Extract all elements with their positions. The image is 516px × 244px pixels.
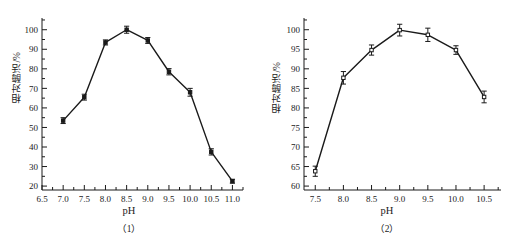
y-tick-label: 90 xyxy=(29,44,39,54)
data-series-line xyxy=(315,30,484,171)
chart-2-caption: （2） xyxy=(258,221,516,235)
data-series-line xyxy=(63,30,232,181)
y-tick-label: 80 xyxy=(29,64,39,74)
data-point-marker xyxy=(83,95,86,98)
x-tick-label: 8.0 xyxy=(338,194,350,204)
x-tick-label: 10.0 xyxy=(448,194,464,204)
y-tick-label: 50 xyxy=(29,123,39,133)
data-point-marker xyxy=(146,39,149,42)
x-tick-label: 9.0 xyxy=(394,194,406,204)
panel-2: 60657075808590951007.58.08.59.09.510.010… xyxy=(258,0,516,244)
y-tick-label: 20 xyxy=(29,181,39,191)
x-tick-label: 9.0 xyxy=(142,194,154,204)
data-point-marker xyxy=(398,28,401,31)
panel-1: 20304050607080901006.57.07.58.08.59.09.5… xyxy=(0,0,258,244)
figure-two-panel-ph-activity: 20304050607080901006.57.07.58.08.59.09.5… xyxy=(0,0,516,244)
y-tick-label: 80 xyxy=(291,103,301,113)
y-tick-label: 40 xyxy=(29,142,39,152)
x-tick-label: 10.5 xyxy=(203,194,219,204)
x-tick-label: 6.5 xyxy=(36,194,48,204)
y-tick-label: 90 xyxy=(291,64,301,74)
x-tick-label: 9.5 xyxy=(422,194,434,204)
chart-1-caption: （1） xyxy=(0,221,258,235)
chart-2-y-axis-label: 相对酶活/% xyxy=(270,62,284,113)
y-tick-label: 70 xyxy=(29,84,39,94)
data-point-marker xyxy=(314,170,317,173)
chart-1-y-axis-label: 相对酶活/% xyxy=(10,52,24,103)
y-tick-label: 100 xyxy=(25,25,39,35)
y-tick-label: 65 xyxy=(291,162,301,172)
chart-2-x-axis-label: pH xyxy=(258,205,516,216)
y-tick-label: 70 xyxy=(291,142,301,152)
x-tick-label: 9.5 xyxy=(163,194,175,204)
data-point-marker xyxy=(370,48,373,51)
x-tick-label: 7.5 xyxy=(310,194,322,204)
x-tick-label: 8.5 xyxy=(366,194,378,204)
x-tick-label: 10.0 xyxy=(182,194,198,204)
data-point-marker xyxy=(125,28,128,31)
y-tick-label: 30 xyxy=(29,162,39,172)
chart-1-x-axis-label: pH xyxy=(0,205,258,216)
x-tick-label: 8.0 xyxy=(100,194,112,204)
data-point-marker xyxy=(210,150,213,153)
y-tick-label: 60 xyxy=(291,181,301,191)
y-tick-label: 85 xyxy=(291,84,301,94)
data-point-marker xyxy=(426,33,429,36)
data-point-marker xyxy=(231,180,234,183)
x-tick-label: 8.5 xyxy=(121,194,133,204)
x-tick-label: 7.0 xyxy=(58,194,70,204)
data-point-marker xyxy=(188,91,191,94)
data-point-marker xyxy=(61,119,64,122)
x-tick-label: 7.5 xyxy=(79,194,91,204)
data-point-marker xyxy=(167,70,170,73)
data-point-marker xyxy=(342,76,345,79)
y-tick-label: 95 xyxy=(291,44,301,54)
data-point-marker xyxy=(104,41,107,44)
data-point-marker xyxy=(482,95,485,98)
y-tick-label: 75 xyxy=(291,123,301,133)
y-tick-label: 100 xyxy=(287,25,301,35)
x-tick-label: 10.5 xyxy=(476,194,492,204)
y-tick-label: 60 xyxy=(29,103,39,113)
x-tick-label: 11.0 xyxy=(225,194,241,204)
data-point-marker xyxy=(454,48,457,51)
